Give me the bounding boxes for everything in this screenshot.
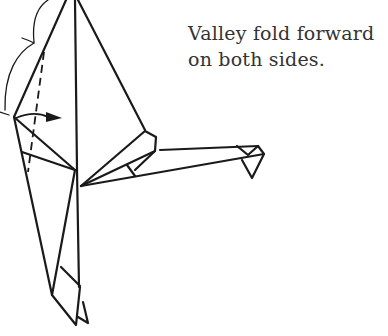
neck	[81, 146, 264, 186]
instruction-caption: Valley fold forward on both sides.	[188, 20, 374, 72]
instruction-line-2: on both sides.	[188, 46, 374, 72]
bottom-point	[52, 267, 88, 325]
fold-arrow-icon	[16, 112, 62, 122]
instruction-line-1: Valley fold forward	[188, 20, 374, 46]
head-fold	[81, 131, 156, 186]
